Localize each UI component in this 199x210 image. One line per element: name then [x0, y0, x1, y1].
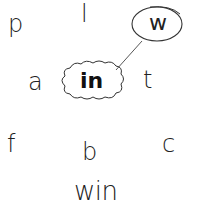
circled-letter-w: w	[149, 12, 167, 34]
letter-l: l	[81, 2, 88, 26]
connector-line	[116, 41, 142, 70]
letter-t: t	[143, 68, 152, 92]
letter-a: a	[28, 70, 43, 94]
letter-f: f	[7, 132, 15, 156]
letter-c: c	[162, 132, 175, 156]
letter-p: p	[8, 12, 23, 36]
answer-word: win	[74, 178, 117, 204]
center-word: in	[80, 70, 103, 92]
letter-b: b	[82, 140, 97, 164]
